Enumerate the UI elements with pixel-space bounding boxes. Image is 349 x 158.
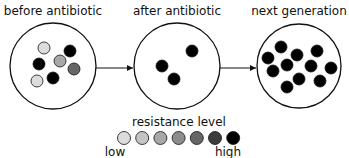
bacterium [33,58,45,70]
bacterium [314,75,326,87]
bacterium [291,49,303,61]
bacterium [186,45,198,57]
bacterium [47,72,59,84]
stage-label: before antibiotic [4,4,102,18]
bacterium [293,73,305,85]
legend-dot [154,132,167,145]
legend-low-label: low [105,145,126,158]
legend-dot [136,132,149,145]
petri-dish [134,23,220,109]
bacterium [168,73,180,85]
bacterium [156,60,168,72]
legend-dot [118,132,131,145]
bacterium [305,60,317,72]
stage-label: after antibiotic [133,4,221,18]
bacterium [275,41,287,53]
legend-title: resistance level [132,115,226,129]
bacterium [38,42,50,54]
bacterium [267,65,279,77]
antibiotic-resistance-diagram: before antibioticafter antibioticnext ge… [0,0,349,158]
bacterium [325,62,337,74]
bacterium [311,45,323,57]
legend-dot [172,132,185,145]
petri-dish [10,23,96,109]
legend-scale [118,132,240,145]
bacterium [68,63,80,75]
stage-label: next generation [251,4,347,18]
legend-high-label: high [215,145,241,158]
legend-dot [209,132,222,145]
bacterium [64,45,76,57]
bacterium [31,75,43,87]
bacterium [281,59,293,71]
bacterium [262,52,274,64]
legend-dot [227,132,240,145]
bacterium [281,81,293,93]
legend-dot [190,132,203,145]
bacterium [54,55,66,67]
